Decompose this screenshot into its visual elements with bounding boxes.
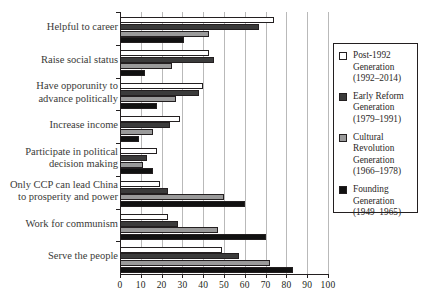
legend-label: Early ReformGeneration(1979–1991)	[353, 91, 413, 126]
legend-label-line: (1949–1965)	[353, 207, 413, 219]
bar	[120, 63, 172, 69]
legend-label-line: Generation	[353, 102, 413, 114]
legend-label-line: (1979–1991)	[353, 114, 413, 126]
bar	[120, 37, 184, 43]
y-tick-1	[116, 45, 120, 46]
bar	[120, 162, 143, 168]
legend-swatch-icon	[339, 186, 347, 194]
bar	[120, 168, 153, 174]
y-tick-2	[116, 78, 120, 79]
legend-label: CulturalRevolutionGeneration(1966–1978)	[353, 132, 413, 178]
bar	[120, 129, 153, 135]
bar	[120, 31, 209, 37]
bar	[120, 201, 245, 207]
category-label: Only CCP can lead Chinato prosperity and…	[0, 179, 118, 204]
bar	[120, 227, 218, 233]
x-tick-100	[328, 274, 329, 278]
x-tick-60	[245, 274, 246, 278]
category-label: Raise social status	[0, 54, 118, 67]
x-tick-0	[120, 274, 121, 278]
legend-label: FoundingGeneration(1949–1965)	[353, 184, 413, 219]
category-label: Increase income	[0, 119, 118, 132]
legend-label-line: Revolution	[353, 143, 413, 155]
legend-label-line: Cultural	[353, 132, 413, 144]
bar	[120, 214, 168, 220]
bar	[120, 267, 293, 273]
bar	[120, 253, 239, 259]
category-label-line: decision making	[0, 158, 118, 171]
legend-label-line: Post-1992	[353, 50, 413, 62]
bar	[120, 260, 270, 266]
category-label: Have opporunity toadvance politically	[0, 80, 118, 105]
category-label-line: Participate in political	[0, 146, 118, 159]
bar	[120, 155, 147, 161]
legend-label: Post-1992Generation(1992–2014)	[353, 50, 413, 85]
y-tick-4	[116, 143, 120, 144]
chart-figure: Helpful to careerRaise social statusHave…	[0, 0, 423, 303]
category-label: Helpful to career	[0, 21, 118, 34]
x-tick-40	[203, 274, 204, 278]
x-tick-50	[224, 274, 225, 278]
bar	[120, 70, 145, 76]
x-tick-80	[286, 274, 287, 278]
gridline-80	[286, 12, 287, 274]
category-axis-labels: Helpful to careerRaise social statusHave…	[0, 0, 118, 262]
legend-label-line: Early Reform	[353, 91, 413, 103]
category-label-line: Have opporunity to	[0, 80, 118, 93]
legend-swatch-icon	[339, 134, 347, 142]
category-label: Serve the people	[0, 250, 118, 263]
bar	[120, 83, 203, 89]
bar	[120, 181, 160, 187]
legend-item[interactable]: FoundingGeneration(1949–1965)	[339, 184, 413, 219]
y-tick-7	[116, 241, 120, 242]
category-label-line: to prosperity and power	[0, 191, 118, 204]
bar	[120, 103, 157, 109]
legend-label-line: Generation	[353, 155, 413, 167]
bar	[120, 136, 139, 142]
category-label-line: Only CCP can lead China	[0, 179, 118, 192]
category-label-line: Raise social status	[0, 54, 118, 67]
x-tick-30	[182, 274, 183, 278]
bar	[120, 122, 170, 128]
y-tick-5	[116, 176, 120, 177]
bar	[120, 194, 224, 200]
bar	[120, 96, 176, 102]
y-tick-6	[116, 209, 120, 210]
x-tick-90	[307, 274, 308, 278]
y-tick-0	[116, 12, 120, 13]
bar	[120, 90, 199, 96]
legend-label-line: Generation	[353, 196, 413, 208]
gridline-70	[266, 12, 267, 274]
bar	[120, 188, 168, 194]
x-tick-label-100: 100	[316, 280, 340, 290]
bar	[120, 221, 178, 227]
category-label-line: Work for communism	[0, 218, 118, 231]
legend-item[interactable]: Early ReformGeneration(1979–1991)	[339, 91, 413, 126]
x-tick-10	[141, 274, 142, 278]
legend-swatch-icon	[339, 93, 347, 101]
chart-legend: Post-1992Generation(1992–2014)Early Refo…	[333, 43, 418, 213]
bar	[120, 24, 259, 30]
gridline-100	[328, 12, 329, 274]
bar	[120, 50, 209, 56]
legend-item[interactable]: Post-1992Generation(1992–2014)	[339, 50, 413, 85]
bar	[120, 234, 266, 240]
legend-item[interactable]: CulturalRevolutionGeneration(1966–1978)	[339, 132, 413, 178]
plot-area: 0102030405060708090100	[120, 12, 328, 274]
category-label-line: Helpful to career	[0, 21, 118, 34]
bar	[120, 57, 214, 63]
y-tick-3	[116, 110, 120, 111]
bar	[120, 116, 180, 122]
legend-swatch-icon	[339, 52, 347, 60]
category-label-line: Increase income	[0, 119, 118, 132]
legend-label-line: (1966–1978)	[353, 166, 413, 178]
legend-label-line: Founding	[353, 184, 413, 196]
x-tick-20	[162, 274, 163, 278]
category-label: Work for communism	[0, 218, 118, 231]
bar	[120, 148, 157, 154]
gridline-90	[307, 12, 308, 274]
category-label-line: Serve the people	[0, 250, 118, 263]
bar	[120, 17, 274, 23]
bar	[120, 247, 222, 253]
category-label-line: advance politically	[0, 93, 118, 106]
